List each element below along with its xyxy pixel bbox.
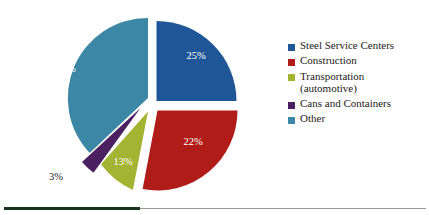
- legend-swatch-icon: [288, 102, 295, 109]
- legend-item-label: Transportation (automotive): [300, 71, 364, 95]
- pie-label-other: 37%: [56, 63, 76, 74]
- legend-item-steel-service-centers[interactable]: Steel Service Centers: [288, 40, 426, 52]
- pie-label-transportation: 13%: [113, 156, 133, 167]
- legend-swatch-icon: [288, 117, 295, 124]
- legend-item-label: Cans and Containers: [300, 98, 391, 110]
- pie-label-construction: 22%: [183, 136, 203, 147]
- footer-divider: [0, 207, 429, 210]
- legend-item-label: Steel Service Centers: [300, 40, 394, 52]
- legend-item-transportation[interactable]: Transportation (automotive): [288, 71, 426, 95]
- pie-chart-plot-area: 25% 22% 13% 3% 37%: [0, 0, 276, 196]
- pie-chart-svg: 25% 22% 13% 3% 37%: [0, 0, 276, 196]
- legend-item-label: Other: [300, 113, 325, 125]
- pie-chart-figure: 25% 22% 13% 3% 37% Steel Service Centers…: [0, 0, 429, 215]
- pie-slice-construction[interactable]: [143, 111, 238, 191]
- legend-item-construction[interactable]: Construction: [288, 55, 426, 67]
- footer-divider-accent: [4, 207, 140, 210]
- pie-label-steel-service-centers: 25%: [186, 50, 206, 61]
- legend-item-cans-and-containers[interactable]: Cans and Containers: [288, 98, 426, 110]
- legend-swatch-icon: [288, 59, 295, 66]
- pie-label-cans-and-containers: 3%: [49, 171, 63, 182]
- legend-item-label: Construction: [300, 55, 357, 67]
- legend-swatch-icon: [288, 74, 295, 81]
- legend-swatch-icon: [288, 44, 295, 51]
- footer-divider-line: [140, 208, 426, 209]
- chart-legend: Steel Service Centers Construction Trans…: [288, 40, 426, 129]
- legend-item-other[interactable]: Other: [288, 113, 426, 125]
